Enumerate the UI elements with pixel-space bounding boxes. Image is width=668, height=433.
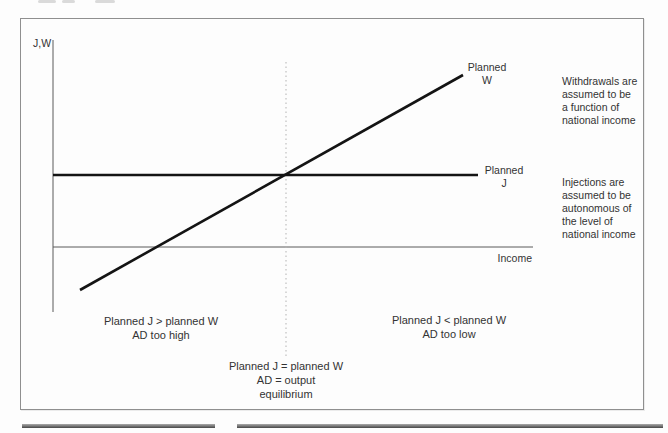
cropped-element-rule-left — [22, 424, 215, 428]
region-annotation-left-line2: AD too high — [81, 328, 241, 342]
region-annotation-equilibrium: Planned J = planned W AD = output equili… — [206, 359, 366, 401]
region-annotation-right-line2: AD too low — [369, 327, 529, 341]
cropped-text-remnant — [62, 0, 75, 3]
x-axis-label: Income — [452, 252, 532, 265]
planned-w-label: Planned W — [457, 61, 517, 87]
planned-j-label-line2: J — [474, 177, 534, 190]
injections-note-line1: Injections are — [562, 176, 652, 189]
injections-note-line2: assumed to be — [562, 189, 652, 202]
region-annotation-equilibrium-line1: Planned J = planned W — [206, 359, 366, 373]
planned-j-label: Planned J — [474, 164, 534, 190]
injections-note-line3: autonomous of — [562, 202, 652, 215]
cropped-text-remnant — [95, 0, 115, 3]
withdrawals-note-line3: a function of — [562, 101, 652, 114]
withdrawals-note: Withdrawals are assumed to be a function… — [562, 75, 652, 127]
withdrawals-note-line2: assumed to be — [562, 88, 652, 101]
region-annotation-equilibrium-line2: AD = output — [206, 373, 366, 387]
planned-j-label-line1: Planned — [474, 164, 534, 177]
cropped-text-remnant — [38, 0, 56, 3]
figure-frame: J,W Planned W Planned J Income Planned J… — [20, 18, 644, 410]
region-annotation-right-line1: Planned J < planned W — [369, 313, 529, 327]
diagram-canvas — [21, 19, 643, 409]
withdrawals-note-line4: national income — [562, 114, 652, 127]
region-annotation-left-line1: Planned J > planned W — [81, 314, 241, 328]
injections-note-line5: national income — [562, 228, 652, 241]
region-annotation-equilibrium-line3: equilibrium — [206, 387, 366, 401]
figure-page: J,W Planned W Planned J Income Planned J… — [0, 0, 668, 433]
y-axis-label: J,W — [33, 37, 51, 50]
cropped-element-rule-right — [237, 424, 663, 428]
planned-w-label-line2: W — [457, 74, 517, 87]
region-annotation-right: Planned J < planned W AD too low — [369, 313, 529, 341]
planned-w-label-line1: Planned — [457, 61, 517, 74]
region-annotation-left: Planned J > planned W AD too high — [81, 314, 241, 342]
withdrawals-note-line1: Withdrawals are — [562, 75, 652, 88]
injections-note: Injections are assumed to be autonomous … — [562, 176, 652, 241]
injections-note-line4: the level of — [562, 215, 652, 228]
planned-w-line — [80, 75, 463, 290]
